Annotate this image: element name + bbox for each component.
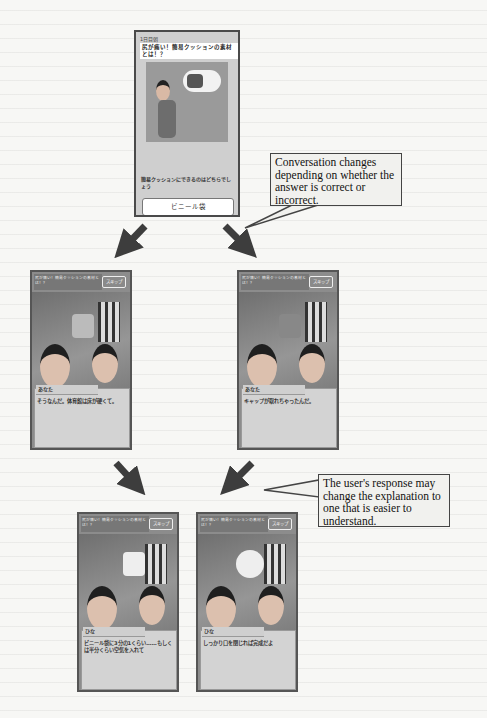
callout-branching: Conversation changes depending on whethe… (270, 153, 402, 206)
arrow-icon (116, 226, 252, 485)
callout-tail-icon (245, 205, 318, 228)
callout-tail-icon (264, 480, 319, 497)
callout-adaptive: The user's response may change the expla… (318, 474, 450, 527)
flow-arrows (0, 0, 487, 718)
